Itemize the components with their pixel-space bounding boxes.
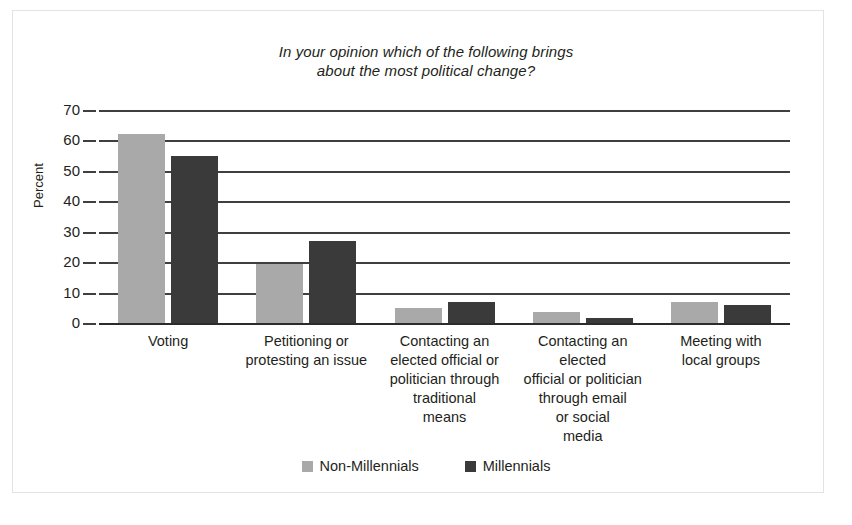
y-tick-60 — [83, 140, 96, 142]
y-tick-20 — [83, 262, 96, 264]
x-axis-label-line: Petitioning or — [241, 332, 371, 351]
y-tick-30 — [83, 232, 96, 234]
legend-swatch-icon — [302, 461, 313, 472]
bar-pair — [652, 110, 790, 323]
x-axis-label-line: protesting an issue — [241, 351, 371, 370]
bar-group — [375, 110, 513, 323]
bar[interactable] — [448, 302, 495, 323]
bar[interactable] — [171, 156, 218, 323]
bar[interactable] — [724, 305, 771, 323]
legend-item[interactable]: Non-Millennials — [302, 458, 419, 474]
bar[interactable] — [671, 302, 718, 323]
x-axis-label: Contacting anelected official orpolitici… — [375, 332, 513, 446]
y-tick-label-60: 60 — [40, 132, 80, 147]
x-axis-category-labels: VotingPetitioning orprotesting an issueC… — [99, 332, 790, 446]
bar[interactable] — [309, 241, 356, 323]
x-axis-label: Voting — [99, 332, 237, 446]
bar-pair — [375, 110, 513, 323]
bar-pair — [514, 110, 652, 323]
x-axis-label: Contacting an electedofficial or politic… — [514, 332, 652, 446]
legend-label: Millennials — [483, 458, 551, 474]
bar-group — [652, 110, 790, 323]
x-axis-label: Meeting withlocal groups — [652, 332, 790, 446]
y-tick-40 — [83, 201, 96, 203]
y-axis-tick-labels: 706050403020100 — [40, 110, 80, 323]
legend-label: Non-Millennials — [320, 458, 419, 474]
y-tick-label-40: 40 — [40, 193, 80, 208]
y-tick-label-50: 50 — [40, 163, 80, 178]
x-axis-label-line: elected official or — [379, 351, 509, 370]
bar-group — [99, 110, 237, 323]
x-axis-label-line: Voting — [103, 332, 233, 351]
bar[interactable] — [395, 308, 442, 323]
y-tick-label-0: 0 — [40, 315, 80, 330]
plot-area — [99, 110, 790, 323]
bar[interactable] — [586, 318, 633, 323]
bar[interactable] — [118, 134, 165, 323]
chart-title-line-2: about the most political change? — [0, 61, 852, 80]
bar-pair — [237, 110, 375, 323]
y-tick-70 — [83, 110, 96, 112]
chart-page: In your opinion which of the following b… — [0, 0, 852, 525]
x-axis-label-line: or social — [518, 408, 648, 427]
x-axis-label-line: media — [518, 427, 648, 446]
x-axis-label-line: Meeting with — [656, 332, 786, 351]
x-axis-label-line: Contacting an — [379, 332, 509, 351]
x-axis-label-line: traditional — [379, 389, 509, 408]
bar-pair — [99, 110, 237, 323]
x-axis-label-line: local groups — [656, 351, 786, 370]
chart-title: In your opinion which of the following b… — [0, 42, 852, 80]
legend-swatch-icon — [465, 461, 476, 472]
y-tick-10 — [83, 293, 96, 295]
x-axis-label-line: politician through — [379, 370, 509, 389]
x-axis-label-line: official or politician — [518, 370, 648, 389]
gridline-0 — [99, 323, 790, 325]
y-tick-0 — [83, 323, 96, 325]
bar-group — [237, 110, 375, 323]
bar[interactable] — [256, 264, 303, 323]
y-tick-label-30: 30 — [40, 224, 80, 239]
x-axis-label-line: through email — [518, 389, 648, 408]
bar-group — [514, 110, 652, 323]
legend-item[interactable]: Millennials — [465, 458, 551, 474]
y-tick-50 — [83, 171, 96, 173]
bar-groups — [99, 110, 790, 323]
chart-legend: Non-MillennialsMillennials — [0, 458, 852, 474]
y-tick-label-20: 20 — [40, 254, 80, 269]
y-tick-label-10: 10 — [40, 285, 80, 300]
x-axis-label-line: Contacting an elected — [518, 332, 648, 370]
bar[interactable] — [533, 312, 580, 323]
x-axis-label-line: means — [379, 408, 509, 427]
y-tick-label-70: 70 — [40, 102, 80, 117]
x-axis-label: Petitioning orprotesting an issue — [237, 332, 375, 446]
chart-title-line-1: In your opinion which of the following b… — [0, 42, 852, 61]
